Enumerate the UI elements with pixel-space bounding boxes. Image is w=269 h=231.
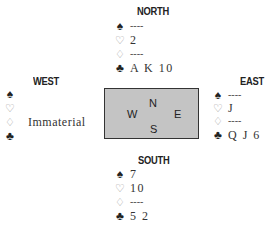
spade-icon: ♠ — [5, 87, 15, 101]
compass-north: N — [149, 97, 157, 109]
diamond-icon: ♢ — [115, 47, 125, 61]
compass-table: N W E S — [104, 88, 199, 139]
club-icon: ♣ — [115, 61, 125, 75]
heart-icon: ♡ — [115, 33, 125, 47]
heart-icon: ♡ — [213, 101, 223, 115]
compass-west: W — [127, 108, 137, 120]
south-label: SOUTH — [138, 154, 169, 166]
south-spades-cards: 7 — [130, 167, 138, 181]
north-hearts-cards: 2 — [130, 33, 138, 47]
east-spades-cards: ---- — [228, 88, 241, 102]
east-clubs-cards: Q J 6 — [228, 128, 261, 142]
east-hearts-cards: J — [228, 101, 234, 115]
compass-east: E — [174, 108, 181, 120]
club-icon: ♣ — [115, 209, 125, 223]
north-clubs-cards: A K 10 — [130, 61, 174, 75]
west-diamonds-cards: Immaterial — [28, 115, 86, 129]
diamond-icon: ♢ — [5, 115, 15, 129]
south-hearts-cards: 10 — [130, 181, 145, 195]
spade-icon: ♠ — [115, 19, 125, 33]
club-icon: ♣ — [5, 129, 15, 143]
east-label: EAST — [240, 75, 264, 87]
heart-icon: ♡ — [5, 101, 15, 115]
north-diamonds-cards: ---- — [130, 47, 143, 61]
north-label: NORTH — [137, 5, 169, 17]
diamond-icon: ♢ — [213, 114, 223, 128]
east-diamonds-cards: ---- — [228, 114, 241, 128]
spade-icon: ♠ — [115, 167, 125, 181]
diamond-icon: ♢ — [115, 195, 125, 209]
compass-south: S — [150, 123, 157, 135]
west-label: WEST — [33, 75, 59, 87]
south-clubs-cards: 5 2 — [130, 209, 150, 223]
club-icon: ♣ — [213, 128, 223, 142]
spade-icon: ♠ — [213, 88, 223, 102]
south-diamonds-cards: ---- — [130, 195, 143, 209]
heart-icon: ♡ — [115, 181, 125, 195]
north-spades-cards: ---- — [130, 19, 143, 33]
